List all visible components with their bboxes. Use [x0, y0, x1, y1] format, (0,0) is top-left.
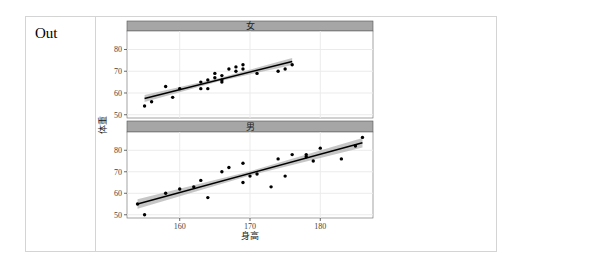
- data-point: [312, 159, 315, 162]
- data-point: [290, 153, 293, 156]
- y-tick-label: 60: [114, 189, 122, 198]
- x-tick-label: 160: [174, 222, 186, 231]
- data-point: [199, 179, 202, 182]
- data-point: [283, 67, 286, 70]
- data-point: [206, 78, 209, 81]
- data-point: [234, 70, 237, 73]
- data-point: [340, 157, 343, 160]
- y-tick-label: 70: [114, 168, 122, 177]
- data-point: [241, 67, 244, 70]
- data-point: [361, 136, 364, 139]
- y-tick-label: 80: [114, 45, 122, 54]
- data-point: [178, 87, 181, 90]
- data-point: [319, 146, 322, 149]
- data-point: [164, 85, 167, 88]
- data-point: [171, 96, 174, 99]
- data-point: [269, 185, 272, 188]
- y-tick-label: 80: [114, 146, 122, 155]
- data-point: [206, 196, 209, 199]
- data-point: [290, 63, 293, 66]
- data-point: [305, 155, 308, 158]
- data-point: [227, 67, 230, 70]
- facet-label: 女: [246, 20, 255, 31]
- data-point: [220, 74, 223, 77]
- data-point: [241, 181, 244, 184]
- data-point: [143, 104, 146, 107]
- data-point: [255, 172, 258, 175]
- data-point: [241, 63, 244, 66]
- x-tick-label: 170: [244, 222, 256, 231]
- data-point: [199, 80, 202, 83]
- data-point: [150, 100, 153, 103]
- data-point: [192, 185, 195, 188]
- data-point: [255, 72, 258, 75]
- data-point: [241, 161, 244, 164]
- data-point: [276, 70, 279, 73]
- data-point: [283, 174, 286, 177]
- y-tick-label: 50: [114, 111, 122, 120]
- data-point: [213, 76, 216, 79]
- data-point: [206, 87, 209, 90]
- y-tick-label: 50: [114, 211, 122, 220]
- x-axis-title: 身高: [241, 230, 259, 241]
- data-point: [220, 80, 223, 83]
- data-point: [136, 202, 139, 205]
- faceted-scatter-chart: 女50607080男50607080160170180身高体重: [0, 0, 589, 259]
- data-point: [199, 87, 202, 90]
- data-point: [276, 157, 279, 160]
- y-tick-label: 70: [114, 67, 122, 76]
- facet-label: 男: [246, 122, 255, 132]
- data-point: [227, 166, 230, 169]
- data-point: [178, 187, 181, 190]
- data-point: [248, 174, 251, 177]
- x-tick-label: 180: [314, 222, 326, 231]
- data-point: [234, 65, 237, 68]
- data-point: [213, 72, 216, 75]
- data-point: [220, 170, 223, 173]
- data-point: [354, 144, 357, 147]
- y-axis-title: 体重: [97, 116, 108, 134]
- data-point: [164, 192, 167, 195]
- y-tick-label: 60: [114, 89, 122, 98]
- data-point: [143, 213, 146, 216]
